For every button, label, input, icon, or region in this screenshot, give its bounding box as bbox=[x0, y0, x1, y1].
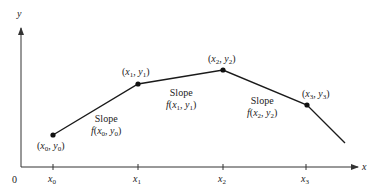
point-label-2: (x2, y2) bbox=[208, 53, 236, 66]
slope-label-2: Slope f(x2, y2) bbox=[247, 95, 277, 122]
tick-label-x1: x1 bbox=[133, 173, 141, 186]
tick-label-x0: x0 bbox=[48, 173, 56, 186]
tick-label-x2: x2 bbox=[218, 173, 226, 186]
euler-method-diagram: y x 0 x0 x1 x2 x3 (x0, y0) (x1, y1) (x2,… bbox=[0, 0, 373, 192]
point-label-1: (x1, y1) bbox=[122, 66, 150, 79]
point-1 bbox=[135, 81, 140, 86]
tick-label-x3: x3 bbox=[301, 173, 309, 186]
point-3 bbox=[304, 102, 309, 107]
point-label-3: (x3, y3) bbox=[302, 88, 330, 101]
point-0 bbox=[50, 132, 55, 137]
y-axis-label: y bbox=[17, 8, 21, 19]
slope-label-1: Slope f(x1, y1) bbox=[166, 87, 196, 114]
slope-label-0: Slope f(x0, y0) bbox=[91, 113, 121, 140]
point-2 bbox=[220, 67, 225, 72]
x-axis-label: x bbox=[362, 161, 366, 172]
origin-label: 0 bbox=[12, 174, 17, 185]
point-label-0: (x0, y0) bbox=[37, 140, 65, 153]
